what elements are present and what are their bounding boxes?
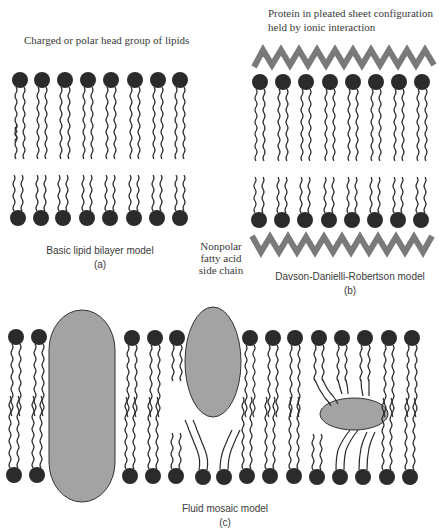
- integral-protein-large: [49, 310, 115, 502]
- panel-a-top-leaflet: [12, 72, 188, 123]
- protein-zigzag-top: [254, 50, 434, 67]
- integral-protein-partial: [185, 307, 241, 417]
- panel-b-top-leaflet: [252, 74, 430, 125]
- peripheral-protein-ellipse: [320, 398, 388, 430]
- panel-a-bilayer: [10, 72, 188, 226]
- panel-b-bilayer: [251, 50, 434, 252]
- panel-c-bilayer: [6, 307, 420, 502]
- protein-zigzag-bottom: [252, 236, 432, 252]
- panel-a-bottom-leaflet: [10, 175, 188, 226]
- panel-b-bottom-leaflet: [251, 177, 429, 228]
